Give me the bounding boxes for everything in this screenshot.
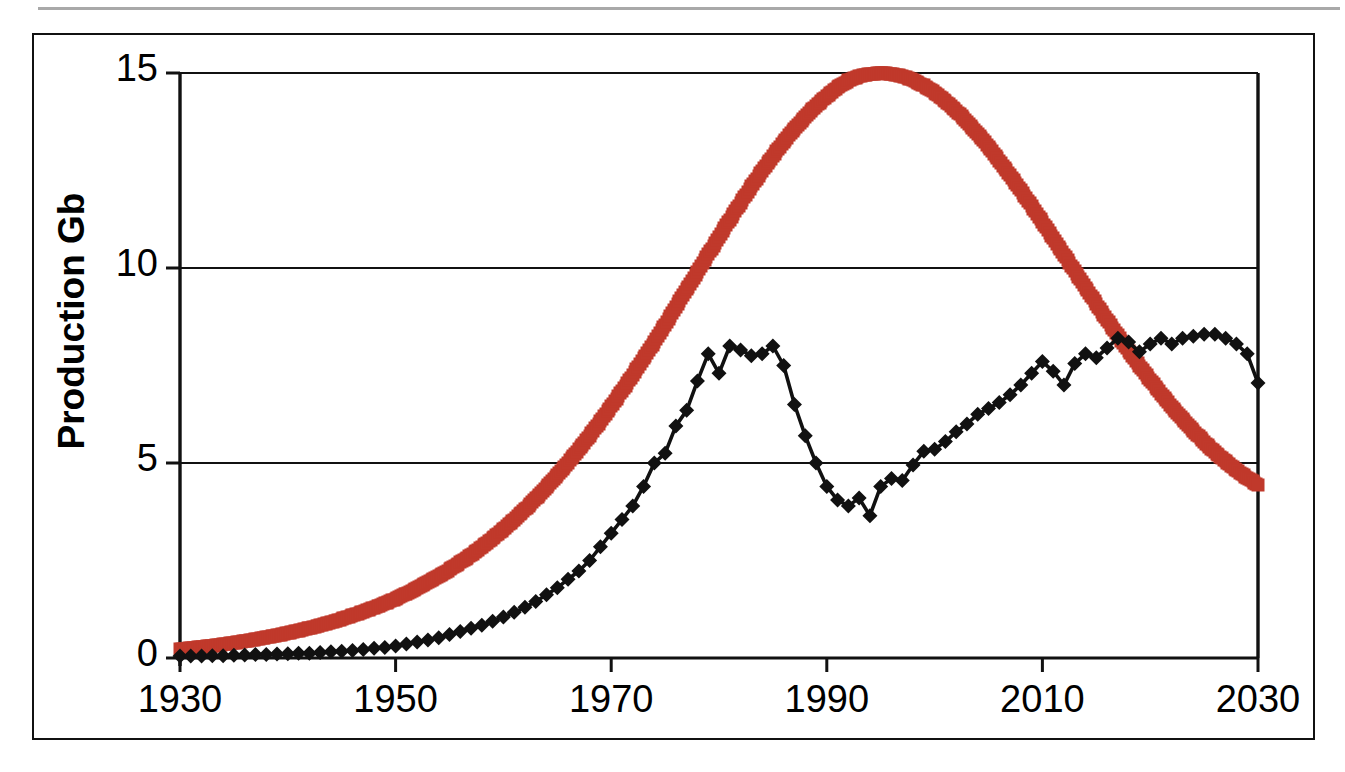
marker-diamond: [442, 627, 457, 642]
marker-diamond: [453, 624, 468, 639]
x-tick-label-2030: 2030: [1178, 678, 1338, 721]
x-tick-label-1970: 1970: [531, 678, 691, 721]
marker-diamond: [798, 428, 813, 443]
marker-diamond: [787, 397, 802, 412]
marker-diamond: [431, 630, 446, 645]
marker-diamond: [636, 479, 651, 494]
x-tick-label-1930: 1930: [100, 678, 260, 721]
x-tick-label-1990: 1990: [747, 678, 907, 721]
x-tick-label-1950: 1950: [316, 678, 476, 721]
marker-diamond: [420, 633, 435, 648]
y-tick-label-10: 10: [88, 242, 158, 285]
marker-diamond: [464, 621, 479, 636]
production-chart: [0, 0, 1345, 772]
chart-page: Production Gb 051015 1930195019701990201…: [0, 0, 1345, 772]
y-tick-label-0: 0: [88, 632, 158, 675]
series-red-model-curve: [174, 67, 1265, 656]
x-tick-label-2010: 2010: [962, 678, 1122, 721]
marker-diamond: [690, 374, 705, 389]
line-path: [180, 334, 1258, 656]
y-tick-label-5: 5: [88, 437, 158, 480]
marker-square: [1252, 479, 1265, 492]
marker-diamond: [776, 358, 791, 373]
axis-lines-group: [166, 73, 1258, 672]
y-tick-label-15: 15: [88, 47, 158, 90]
marker-diamond: [712, 366, 727, 381]
gridlines-group: [180, 73, 1258, 658]
marker-diamond: [1251, 376, 1266, 391]
y-axis-title: Production Gb: [51, 171, 93, 471]
marker-diamond: [809, 456, 824, 471]
marker-diamond: [701, 346, 716, 361]
